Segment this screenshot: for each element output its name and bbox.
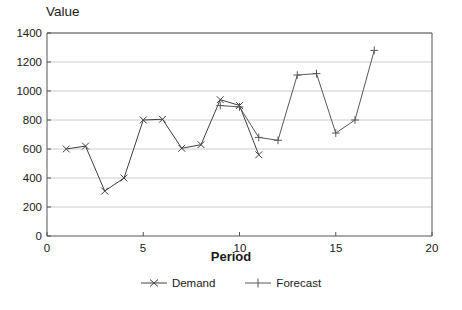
plot-frame bbox=[47, 33, 432, 236]
series-forecast bbox=[216, 47, 378, 145]
chart-container: Value Period 1400 1200 1000 800 600 400 … bbox=[0, 0, 462, 310]
legend-item-demand[interactable]: Demand bbox=[141, 277, 215, 289]
series-demand bbox=[63, 96, 262, 194]
legend-item-forecast[interactable]: Forecast bbox=[245, 277, 321, 289]
legend-label-forecast: Forecast bbox=[276, 277, 321, 289]
chart-legend: Demand Forecast bbox=[0, 277, 462, 289]
gridlines-group bbox=[47, 33, 432, 207]
plot-area bbox=[0, 0, 462, 310]
x-marker-icon bbox=[141, 277, 167, 289]
plus-marker-icon bbox=[245, 277, 271, 289]
legend-label-demand: Demand bbox=[172, 277, 215, 289]
y-tick-marks bbox=[47, 33, 51, 236]
x-tick-marks bbox=[47, 232, 432, 236]
